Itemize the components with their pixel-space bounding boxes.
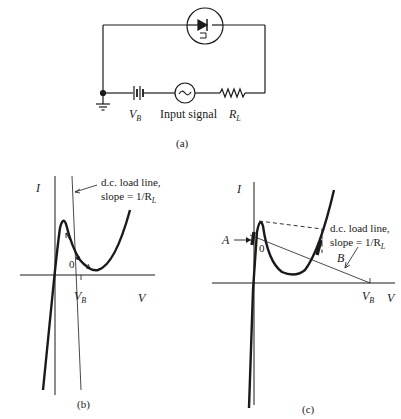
point-a-label-c: A [221,233,230,247]
resistor-icon [220,89,245,97]
vb-label-c: VB [362,289,374,305]
load-line-text-b2: slope = 1/RL [101,190,157,205]
load-line-text-b1: d.c. load line, [101,176,161,188]
battery-icon [134,86,143,100]
figure-canvas: VB Input signal RL (a) I V VB 0 d.c. loa… [0,0,401,419]
source-label: Input signal [160,107,218,121]
plot-panel-b [20,176,155,395]
resistor-label: RL [228,107,241,123]
iv-curve-b [43,210,130,390]
callout-line-b [75,185,97,192]
circuit-panel-a [96,8,265,110]
caption-c: (c) [302,403,315,416]
point-b-label-c: B [337,251,345,265]
operating-point-dot-b [76,256,80,260]
ac-source-icon [175,83,195,103]
operating-point-label-c: 0 [259,242,265,254]
load-line-text-c2: slope = 1/RL [330,236,386,251]
iv-curve-c [249,190,334,408]
tunnel-diode-icon [187,8,223,44]
switch-segment-left-c [252,232,254,245]
caption-a: (a) [176,137,189,150]
switch-segment-right-c [317,240,321,255]
load-line-text-c1: d.c. load line, [330,222,390,234]
x-axis-label-b: V [138,291,147,305]
y-axis-label-b: I [35,181,41,195]
battery-label: VB [129,107,141,123]
load-line-b [72,176,81,390]
caption-b: (b) [77,398,90,411]
y-axis-label-c: I [236,182,242,196]
vb-label-b: VB [74,289,86,305]
callout-line-c [345,247,358,268]
x-axis-label-c: V [387,291,396,305]
ground-icon [96,93,110,110]
operating-point-label-b: 0 [69,258,75,270]
